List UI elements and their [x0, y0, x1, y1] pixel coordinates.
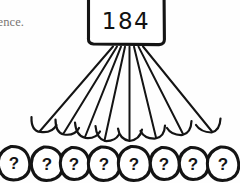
- answer-bubble-label-5: ?: [129, 155, 139, 174]
- answer-bubble-6[interactable]: ?: [150, 147, 179, 179]
- answer-bubble-5[interactable]: ?: [118, 146, 150, 180]
- answer-bubble-label-3: ?: [69, 155, 79, 174]
- answer-bubbles: ? ? ? ? ? ?: [0, 146, 239, 180]
- number-bond-diagram: 184: [0, 0, 240, 183]
- answer-bubble-label-4: ?: [99, 155, 109, 174]
- branch-ray-1: [40, 47, 113, 132]
- answer-bubble-1[interactable]: ?: [0, 146, 30, 179]
- answer-bubble-7[interactable]: ?: [179, 147, 208, 179]
- branch-ray-8: [143, 47, 212, 132]
- answer-bubble-label-6: ?: [159, 155, 169, 174]
- answer-bubble-label-2: ?: [42, 155, 52, 174]
- answer-bubble-3[interactable]: ?: [60, 147, 89, 179]
- answer-bubble-8[interactable]: ?: [207, 147, 238, 180]
- branch-rays: [40, 47, 212, 141]
- answer-bubble-label-7: ?: [188, 155, 198, 174]
- arrowhead-1: [31, 117, 56, 132]
- answer-bubble-4[interactable]: ?: [88, 147, 119, 180]
- worksheet-page: ie entence. 184: [0, 0, 240, 183]
- answer-bubble-label-1: ?: [9, 154, 19, 173]
- answer-bubble-2[interactable]: ?: [31, 147, 62, 180]
- answer-bubble-label-8: ?: [218, 155, 228, 174]
- arrowheads: [31, 117, 220, 141]
- total-box-value: 184: [102, 8, 150, 34]
